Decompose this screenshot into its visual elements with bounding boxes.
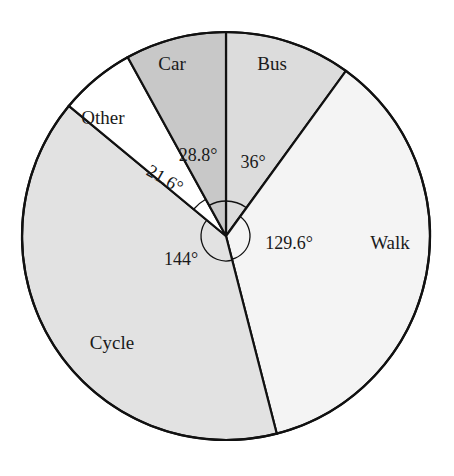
slice-label-car: Car: [158, 53, 186, 74]
slice-label-bus: Bus: [257, 53, 287, 74]
slice-label-other: Other: [81, 107, 125, 128]
angle-label-walk: 129.6°: [265, 233, 313, 253]
pie-slices: [22, 32, 430, 440]
angle-label-car: 28.8°: [179, 145, 218, 165]
angle-label-bus: 36°: [240, 152, 265, 172]
slice-label-cycle: Cycle: [90, 332, 134, 353]
slice-label-walk: Walk: [370, 232, 410, 253]
angle-label-cycle: 144°: [164, 249, 198, 269]
pie-chart: Car Bus Other Walk Cycle 28.8° 36° 21.6°…: [0, 0, 454, 476]
